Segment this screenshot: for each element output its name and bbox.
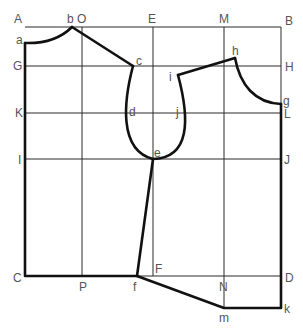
label-E: E [148,13,156,25]
label-m: m [219,312,229,324]
label-a: a [16,34,23,46]
label-O: O [77,13,86,25]
label-d: d [129,106,136,118]
label-A: A [14,13,22,25]
back-neckline [25,27,72,43]
label-g: g [283,95,290,107]
front-neckline [235,58,281,104]
label-K: K [15,107,23,119]
label-F: F [155,263,162,275]
pattern-diagram [0,0,303,334]
label-h: h [232,45,239,57]
back-outline [25,27,153,276]
label-i: i [169,71,172,83]
label-j: j [176,106,179,118]
label-f: f [133,281,136,293]
label-N: N [219,281,228,293]
label-H: H [285,61,294,73]
label-J: J [284,154,290,166]
label-G: G [13,60,22,72]
back-side-seam [137,159,153,276]
label-L: L [284,108,291,120]
label-C: C [13,272,22,284]
label-B: B [285,15,293,27]
label-k: k [284,303,290,315]
label-D: D [285,272,294,284]
front-center-hem [137,104,281,308]
back-shoulder [72,27,133,66]
label-b: b [67,13,74,25]
label-M: M [219,13,229,25]
label-P: P [79,281,87,293]
label-I: I [18,154,21,166]
label-e: e [154,147,161,159]
label-c: c [136,55,142,67]
